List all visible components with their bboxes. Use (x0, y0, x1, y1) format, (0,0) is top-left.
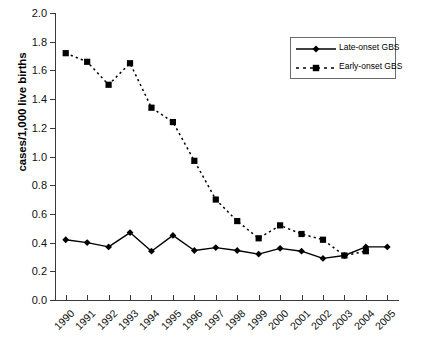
data-point-square (298, 231, 304, 237)
data-point-diamond (234, 247, 241, 254)
data-point-diamond (298, 248, 305, 255)
data-point-square (234, 218, 240, 224)
legend-swatch-solid-diamond-icon (296, 44, 336, 46)
legend-swatch-dashed-square-icon (296, 63, 336, 65)
y-tick-label: 1.4 (21, 94, 47, 104)
y-tick-label: 1.0 (21, 152, 47, 162)
data-point-square (213, 196, 219, 202)
data-point-square (256, 235, 262, 241)
legend-label-late-onset: Late-onset GBS (339, 42, 399, 52)
y-tick-label: 2.0 (21, 8, 47, 18)
data-point-square (84, 59, 90, 65)
y-axis-title: cases/1,000 live births (16, 27, 30, 197)
data-point-diamond (384, 244, 391, 251)
data-point-square (127, 60, 133, 66)
legend-item-early-onset: Early-onset GBS (291, 59, 397, 77)
legend-item-late-onset: Late-onset GBS (291, 40, 397, 58)
y-tick-label: 0.2 (21, 266, 47, 276)
legend-label-early-onset: Early-onset GBS (339, 61, 402, 71)
data-point-square (277, 222, 283, 228)
y-tick-label: 1.6 (21, 65, 47, 75)
data-point-square (63, 50, 69, 56)
data-point-square (320, 237, 326, 243)
data-point-diamond (277, 245, 284, 252)
y-tick-label: 0.6 (21, 209, 47, 219)
data-point-diamond (320, 255, 327, 262)
y-tick-label: 0.8 (21, 180, 47, 190)
data-point-square (105, 82, 111, 88)
data-point-square (191, 158, 197, 164)
data-point-diamond (84, 239, 91, 246)
data-point-square (341, 252, 347, 258)
y-tick-label: 1.2 (21, 123, 47, 133)
chart-legend: Late-onset GBS Early-onset GBS (290, 37, 396, 79)
series-line (66, 233, 388, 259)
data-point-diamond (62, 236, 69, 243)
data-point-square (363, 248, 369, 254)
y-tick-label: 0.4 (21, 238, 47, 248)
data-point-diamond (255, 251, 262, 258)
data-point-diamond (212, 244, 219, 251)
chart-container: cases/1,000 live births 0.00.20.40.60.81… (0, 0, 423, 338)
y-tick-label: 0.0 (21, 295, 47, 305)
data-point-square (170, 119, 176, 125)
data-point-square (148, 105, 154, 111)
y-tick-label: 1.8 (21, 37, 47, 47)
y-tick-mark (50, 300, 55, 301)
